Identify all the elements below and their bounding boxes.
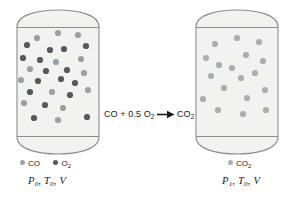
left-molecule-o2 — [64, 67, 70, 73]
right-molecule-co2 — [263, 107, 269, 113]
legend-label-o2-subscript: 2 — [68, 163, 71, 169]
left-molecule-o2 — [37, 57, 43, 63]
left-molecule-o2 — [47, 47, 53, 53]
legend-swatch-co2 — [228, 160, 233, 165]
left-molecule-co — [18, 77, 24, 83]
left-molecule-co — [78, 56, 84, 62]
right-molecule-co2 — [238, 75, 244, 81]
right-molecule-co2 — [244, 95, 250, 101]
left-molecule-o2 — [58, 76, 64, 82]
right-molecule-co2 — [212, 41, 218, 47]
right-molecule-co2 — [200, 96, 206, 102]
left-molecule-o2 — [61, 46, 67, 52]
left-molecule-co — [27, 66, 33, 72]
right-molecule-co2 — [215, 107, 221, 113]
right-molecule-co2 — [234, 35, 240, 41]
reaction-coefficient: 0.5 — [128, 109, 141, 119]
reaction-equation-right: CO2 — [177, 109, 194, 119]
right-volume-symbol: V — [253, 175, 260, 186]
reaction-reactant-2-subscript: 2 — [151, 113, 155, 120]
left-molecule-o2 — [31, 115, 37, 121]
left-pressure-subscript: 0 — [35, 180, 39, 188]
right-molecule-co2 — [256, 39, 262, 45]
reaction-reactant-1: CO — [104, 109, 118, 119]
legend-swatch-o2 — [53, 160, 58, 165]
reaction-plus-sign: + — [120, 109, 125, 119]
left-state-label: P0, T0, V — [28, 175, 66, 186]
left-molecule-co — [21, 100, 27, 106]
right-state-label: P1, T0, V — [222, 175, 260, 186]
legend-swatch-co — [20, 160, 25, 165]
left-molecule-co — [85, 87, 91, 93]
legend-label-co: CO — [28, 159, 40, 168]
reaction-product: CO — [177, 109, 191, 119]
right-molecule-co2 — [260, 58, 266, 64]
left-molecule-co — [49, 89, 55, 95]
left-molecule-co — [34, 35, 40, 41]
left-molecule-co — [81, 70, 87, 76]
reaction-diagram — [0, 0, 290, 203]
legend-label-co2-subscript: 2 — [248, 163, 251, 169]
left-molecule-o2 — [20, 55, 26, 61]
right-molecule-co2 — [262, 87, 268, 93]
right-pressure-symbol: P — [222, 175, 229, 186]
left-legend: CO O2 — [20, 159, 71, 168]
right-molecule-co2 — [240, 111, 246, 117]
left-pressure-symbol: P — [28, 175, 35, 186]
left-molecule-co — [53, 59, 59, 65]
right-vessel — [196, 10, 278, 154]
left-molecule-co — [75, 32, 81, 38]
reaction-arrow-icon — [157, 111, 175, 118]
right-molecule-co2 — [243, 52, 249, 58]
legend-label-co2: CO — [236, 159, 248, 168]
right-vessel-body — [196, 10, 278, 154]
right-molecule-co2 — [229, 65, 235, 71]
right-legend: CO2 — [228, 159, 251, 168]
right-molecule-co2 — [203, 55, 209, 61]
reaction-reactant-2: O — [144, 109, 151, 119]
left-molecule-co — [60, 105, 66, 111]
legend-label-o2: O — [61, 159, 67, 168]
left-molecule-o2 — [27, 89, 33, 95]
left-molecule-o2 — [67, 92, 73, 98]
right-temperature-subscript: 0 — [244, 180, 248, 188]
right-molecule-co2 — [208, 73, 214, 79]
right-pressure-subscript: 1 — [229, 180, 233, 188]
left-molecule-o2 — [42, 102, 48, 108]
left-molecule-o2 — [72, 80, 78, 86]
right-molecule-co2 — [221, 85, 227, 91]
reaction-product-subscript: 2 — [191, 113, 195, 120]
left-vessel — [17, 10, 99, 154]
left-temperature-subscript: 0 — [50, 180, 54, 188]
right-molecule-co2 — [252, 70, 258, 76]
right-molecule-co2 — [216, 62, 222, 68]
left-molecule-co — [55, 117, 61, 123]
left-molecule-o2 — [43, 68, 49, 74]
left-molecule-co — [55, 30, 61, 36]
left-molecule-o2 — [84, 114, 90, 120]
left-molecule-o2 — [24, 42, 30, 48]
left-molecule-o2 — [83, 43, 89, 49]
left-molecule-o2 — [35, 78, 41, 84]
left-volume-symbol: V — [59, 175, 66, 186]
reaction-equation-left: CO + 0.5 O2 — [104, 109, 155, 119]
